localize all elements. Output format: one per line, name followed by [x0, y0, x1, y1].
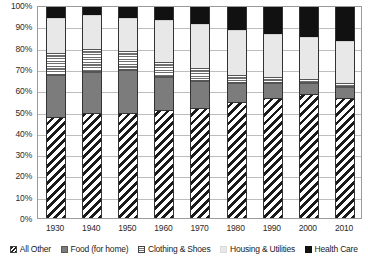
bar-segment-all-other[interactable] [228, 102, 246, 218]
y-axis-tick-label: 10% [16, 194, 32, 202]
bar-slot [291, 7, 327, 218]
bar-segment-food[interactable] [47, 75, 65, 117]
stacked-bar[interactable] [82, 7, 102, 218]
y-axis-tick-label: 0% [20, 215, 32, 223]
bar-segment-health-care[interactable] [228, 7, 246, 30]
legend-label: All Other [20, 244, 51, 254]
legend-swatch-icon [61, 246, 68, 253]
y-axis-tick-label: 60% [16, 87, 32, 95]
bar-segment-all-other[interactable] [191, 108, 209, 218]
legend-label: Clothing & Shoes [148, 244, 210, 254]
footnote-sliver [4, 261, 244, 271]
bar-segment-clothing[interactable] [47, 53, 65, 74]
bar-segment-housing[interactable] [83, 15, 101, 49]
y-axis-tick-label: 70% [16, 66, 32, 74]
legend-item[interactable]: All Other [10, 244, 51, 254]
bar-segment-food[interactable] [83, 72, 101, 112]
stacked-bar[interactable] [263, 7, 283, 218]
bar-slot [182, 7, 218, 218]
stacked-bar[interactable] [154, 7, 174, 218]
plot-area [37, 6, 362, 219]
bar-segment-all-other[interactable] [47, 117, 65, 218]
bar-segment-clothing[interactable] [191, 68, 209, 81]
legend-item[interactable]: Health Care [305, 244, 358, 254]
bar-segment-health-care[interactable] [336, 7, 354, 41]
x-axis-tick-label: 1970 [181, 223, 217, 233]
bar-segment-food[interactable] [300, 83, 318, 94]
legend-swatch-icon [305, 246, 312, 253]
legend-swatch-icon [138, 246, 145, 253]
bar-segment-food[interactable] [228, 83, 246, 102]
bar-segment-health-care[interactable] [119, 7, 137, 18]
stacked-bar[interactable] [190, 7, 210, 218]
bar-segment-health-care[interactable] [83, 7, 101, 15]
bar-segment-health-care[interactable] [47, 7, 65, 18]
bar-segment-health-care[interactable] [264, 7, 282, 34]
bar-segment-health-care[interactable] [300, 7, 318, 37]
y-axis-tick-label: 20% [16, 172, 32, 180]
x-axis-tick-label: 1930 [37, 223, 73, 233]
legend-label: Housing & Utilities [230, 244, 295, 254]
bar-segment-housing[interactable] [228, 30, 246, 74]
bar-segment-housing[interactable] [191, 24, 209, 68]
bar-segment-all-other[interactable] [300, 94, 318, 218]
bar-slot [255, 7, 291, 218]
bar-segment-housing[interactable] [47, 18, 65, 54]
bar-segment-all-other[interactable] [119, 113, 137, 219]
x-axis-tick-label: 1960 [145, 223, 181, 233]
bar-segment-food[interactable] [336, 87, 354, 98]
bar-segment-housing[interactable] [300, 37, 318, 79]
bar-segment-clothing[interactable] [83, 49, 101, 72]
legend-label: Food (for home) [71, 244, 129, 254]
stacked-bar[interactable] [227, 7, 247, 218]
bar-segment-clothing[interactable] [228, 75, 246, 83]
x-axis-tick-label: 1980 [218, 223, 254, 233]
bar-segment-housing[interactable] [336, 41, 354, 83]
y-axis-tick-label: 100% [11, 2, 32, 10]
bar-segment-food[interactable] [264, 83, 282, 98]
bar-slot [74, 7, 110, 218]
bar-segment-food[interactable] [119, 70, 137, 112]
bar-segment-food[interactable] [191, 81, 209, 108]
bar-segment-housing[interactable] [264, 34, 282, 76]
bar-segment-health-care[interactable] [155, 7, 173, 20]
bar-segment-health-care[interactable] [191, 7, 209, 24]
bar-slot [327, 7, 363, 218]
bar-segment-all-other[interactable] [155, 110, 173, 218]
bar-slot [219, 7, 255, 218]
bar-segment-all-other[interactable] [336, 98, 354, 218]
bar-slot [146, 7, 182, 218]
chart-legend: All OtherFood (for home)Clothing & Shoes… [0, 241, 368, 257]
x-axis-tick-label: 2010 [326, 223, 362, 233]
legend-item[interactable]: Clothing & Shoes [138, 244, 210, 254]
stacked-bar[interactable] [118, 7, 138, 218]
bar-segment-all-other[interactable] [264, 98, 282, 218]
bar-segment-clothing[interactable] [155, 62, 173, 77]
legend-item[interactable]: Housing & Utilities [220, 244, 295, 254]
stacked-bar-chart: 0%10%20%30%40%50%60%70%80%90%100% 193019… [0, 0, 368, 271]
bar-segment-clothing[interactable] [119, 51, 137, 70]
y-axis-tick-label: 40% [16, 130, 32, 138]
legend-swatch-icon [220, 246, 227, 253]
x-axis-tick-label: 1990 [254, 223, 290, 233]
legend-label: Health Care [315, 244, 358, 254]
legend-swatch-icon [10, 246, 17, 253]
bar-segment-housing[interactable] [119, 18, 137, 52]
x-axis: 193019401950196019701980199020002010 [37, 221, 362, 239]
y-axis-tick-label: 90% [16, 23, 32, 31]
y-axis: 0%10%20%30%40%50%60%70%80%90%100% [0, 0, 37, 225]
y-axis-tick-label: 50% [16, 109, 32, 117]
bar-segment-housing[interactable] [155, 20, 173, 62]
bar-segment-food[interactable] [155, 77, 173, 111]
x-axis-tick-label: 2000 [290, 223, 326, 233]
stacked-bar[interactable] [299, 7, 319, 218]
x-axis-tick-label: 1940 [73, 223, 109, 233]
bar-segment-all-other[interactable] [83, 113, 101, 219]
stacked-bar[interactable] [335, 7, 355, 218]
y-axis-tick-label: 80% [16, 45, 32, 53]
stacked-bar[interactable] [46, 7, 66, 218]
bar-slot [110, 7, 146, 218]
x-axis-tick-label: 1950 [109, 223, 145, 233]
bar-slot [38, 7, 74, 218]
legend-item[interactable]: Food (for home) [61, 244, 128, 254]
